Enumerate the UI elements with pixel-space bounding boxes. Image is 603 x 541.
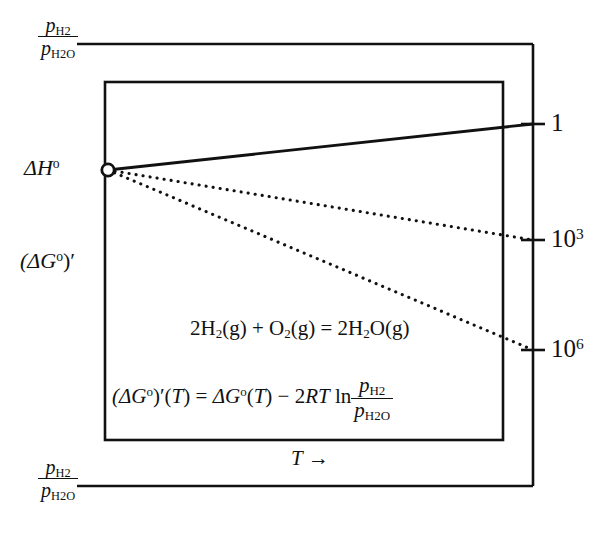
delta-h-origin-marker (102, 164, 114, 176)
scale-label-1: 1 (551, 110, 564, 135)
fraction-equation-numerator: pH2 (351, 374, 393, 398)
fraction-top-numerator: pH2 (38, 14, 78, 36)
fraction-equation-denominator: pH2O (351, 398, 393, 423)
fraction-bottom-numerator: pH2 (38, 456, 78, 478)
delta-g-prime-label: (ΔGo)′ (20, 250, 75, 272)
free-energy-equation: (ΔGo)′(T) = ΔGo(T) − 2RT lnpH2pH2O (112, 374, 393, 422)
fraction-top-denominator: pH2O (38, 36, 78, 59)
fraction-equation: pH2pH2O (351, 374, 393, 422)
x-axis-label: T → (291, 448, 329, 469)
series-line-ratio-1 (108, 124, 533, 170)
fraction-bottom: pH2 pH2O (38, 456, 78, 502)
delta-h-label: ΔHo (24, 157, 60, 179)
ellingham-diagram: pH2 pH2O pH2 pH2O ΔHo (ΔGo)′ 1 103 106 2… (0, 0, 603, 541)
reaction-equation: 2H2(g) + O2(g) = 2H2O(g) (190, 318, 409, 339)
fraction-bottom-denominator: pH2O (38, 478, 78, 501)
ratio-label-bottom: pH2 pH2O (38, 456, 78, 502)
series-line-ratio-1e3 (108, 170, 533, 240)
scale-label-1e6: 106 (551, 336, 584, 361)
fraction-top: pH2 pH2O (38, 14, 78, 60)
scale-label-1e3: 103 (551, 226, 584, 251)
ratio-label-top: pH2 pH2O (38, 14, 78, 60)
